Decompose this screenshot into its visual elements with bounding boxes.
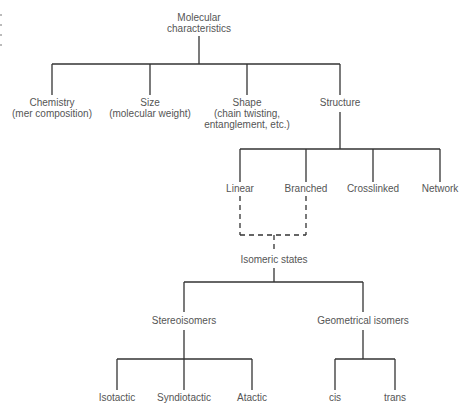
node-atactic: Atactic: [237, 392, 267, 403]
node-size: Size (molecular weight): [109, 97, 191, 119]
node-label-line: (chain twisting,: [204, 108, 290, 119]
node-syndiotactic: Syndiotactic: [157, 392, 211, 403]
node-label-line: entanglement, etc.): [204, 119, 290, 130]
tree-connectors: [0, 0, 468, 413]
node-structure: Structure: [320, 97, 361, 108]
node-label-line: Size: [109, 97, 191, 108]
node-shape: Shape (chain twisting, entanglement, etc…: [204, 97, 290, 130]
node-molecular-characteristics: Molecular characteristics: [167, 12, 231, 34]
node-label-line: (mer composition): [12, 108, 92, 119]
node-label-line: Shape: [204, 97, 290, 108]
node-branched: Branched: [285, 183, 328, 194]
node-network: Network: [422, 183, 459, 194]
node-label-line: (molecular weight): [109, 108, 191, 119]
node-label-line: Structure: [320, 97, 361, 108]
node-label-line: Chemistry: [12, 97, 92, 108]
node-chemistry: Chemistry (mer composition): [12, 97, 92, 119]
node-cis: cis: [329, 392, 341, 403]
node-label-line: Molecular: [167, 12, 231, 23]
node-crosslinked: Crosslinked: [347, 183, 399, 194]
node-geometrical-isomers: Geometrical isomers: [317, 315, 409, 326]
node-isotactic: Isotactic: [99, 392, 136, 403]
node-stereoisomers: Stereoisomers: [152, 315, 216, 326]
node-linear: Linear: [226, 183, 254, 194]
node-trans: trans: [384, 392, 406, 403]
node-isomeric-states: Isomeric states: [240, 254, 307, 265]
node-label-line: characteristics: [167, 23, 231, 34]
